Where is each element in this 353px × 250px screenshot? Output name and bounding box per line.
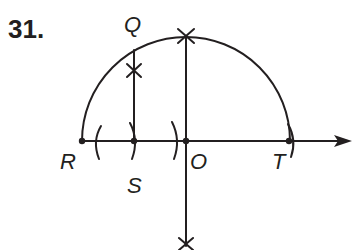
label-t: T [272, 151, 285, 173]
construction-diagram [0, 0, 353, 250]
label-s: S [127, 175, 142, 197]
point-s [131, 138, 137, 144]
label-q: Q [124, 14, 141, 36]
point-r [79, 138, 85, 144]
point-o [183, 138, 189, 144]
label-o: O [190, 151, 207, 173]
point-t [286, 138, 292, 144]
geometry-construction-figure: 31. [0, 0, 353, 250]
label-r: R [60, 151, 76, 173]
arc-mark-left-of-s-icon [96, 126, 101, 159]
